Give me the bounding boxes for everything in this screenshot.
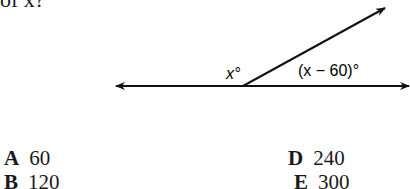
option-letter: A	[4, 146, 19, 170]
option-value: 60	[29, 146, 50, 170]
option-b[interactable]: B120	[4, 170, 60, 189]
right-angle-label: (x − 60)°	[298, 62, 359, 79]
option-e[interactable]: E300	[294, 170, 350, 189]
angle-figure: x° (x − 60)°	[0, 0, 410, 189]
option-letter: D	[288, 146, 303, 170]
option-d[interactable]: D240	[288, 146, 345, 171]
option-value: 300	[318, 170, 350, 189]
option-value: 240	[313, 146, 345, 170]
option-letter: B	[4, 170, 18, 189]
option-a[interactable]: A60	[4, 146, 50, 171]
option-letter: E	[294, 170, 308, 189]
left-angle-label: x°	[225, 65, 241, 82]
option-value: 120	[28, 170, 60, 189]
